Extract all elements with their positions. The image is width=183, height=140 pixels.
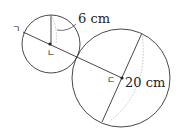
small-dashed-arc (51, 15, 56, 44)
two-circles-diagram: 6 cm 20 cm ㄱ ㄴ ㄷ (0, 0, 183, 140)
large-center-dot (120, 76, 123, 79)
label-large-diameter: 20 cm (125, 75, 165, 90)
label-point-b: ㄴ (47, 48, 55, 58)
label-point-c: ㄷ (107, 75, 115, 85)
label-small-radius: 6 cm (78, 11, 110, 26)
small-center-dot (48, 42, 51, 45)
label-point-a: ㄱ (12, 24, 20, 34)
